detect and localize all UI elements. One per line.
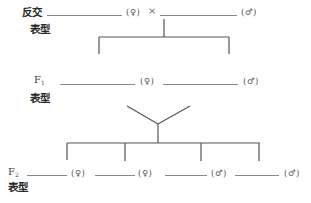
parent-female-symbol: (♀) [126,6,140,18]
f1-v-left [127,106,158,124]
f1-male-symbol: (♂) [243,75,259,87]
parent-male-symbol: (♂) [241,6,257,18]
f2-label: F2 [8,166,19,181]
f1-female-blank[interactable] [60,84,135,85]
f1-label: F1 [34,74,45,89]
parent-female-blank[interactable] [47,15,122,16]
f1-male-blank[interactable] [163,84,238,85]
f1-v-right [158,106,190,124]
f2-phenotype-label: 表型 [8,181,28,193]
f2-blank-3[interactable] [165,175,207,176]
parent-phenotype-label: 表型 [30,23,50,35]
f2-symbol-2: (♀) [138,167,152,179]
f2-symbol-4: (♂) [284,167,300,179]
parent-male-blank[interactable] [160,15,237,16]
f2-blank-2[interactable] [95,175,135,176]
f2-symbol-3: (♂) [211,167,227,179]
cross-sign: × [148,5,156,17]
f1-female-symbol: (♀) [140,75,154,87]
f1-phenotype-label: 表型 [30,92,50,104]
reciprocal-cross-label: 反交 [22,6,42,18]
f2-symbol-1: (♀) [71,167,85,179]
f2-blank-1[interactable] [27,175,67,176]
f2-blank-4[interactable] [235,175,279,176]
